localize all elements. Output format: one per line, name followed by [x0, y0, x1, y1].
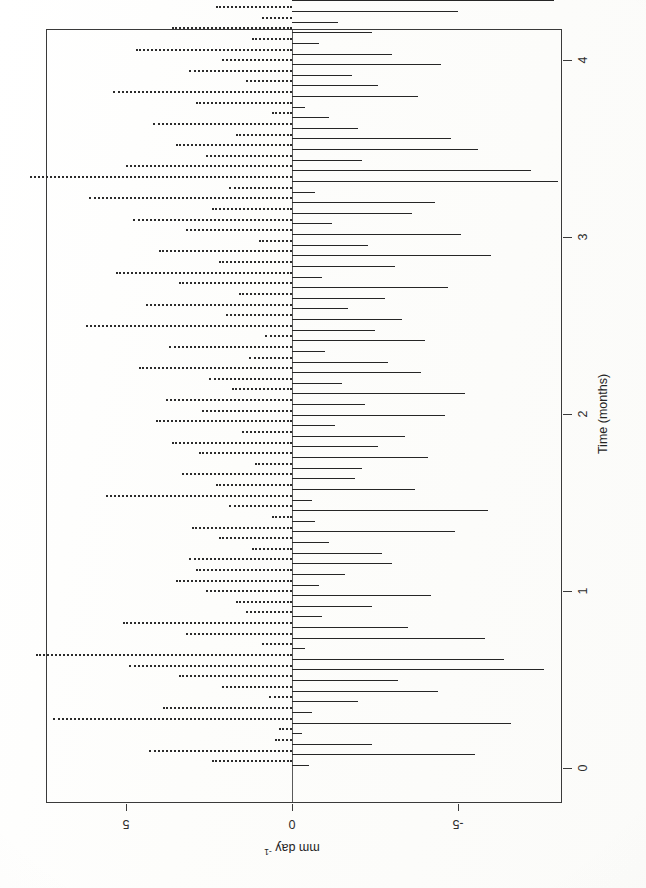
bar-dotted [30, 176, 292, 178]
rotated-timeseries-bar-chart: 50-501234 mm day -1 Time (months) [0, 0, 646, 888]
bar-dotted [209, 378, 292, 380]
bar-solid [292, 606, 372, 607]
bar-solid [292, 436, 405, 437]
bar-solid [292, 138, 451, 139]
bar-solid [292, 351, 325, 352]
bar-dotted [116, 272, 292, 274]
bar-solid [292, 160, 362, 161]
bar-solid [292, 85, 378, 86]
bar-dotted [196, 102, 292, 104]
bar-solid [292, 754, 475, 755]
bar-solid [292, 383, 342, 384]
bar-dotted [246, 80, 292, 82]
bar-dotted [179, 282, 292, 284]
bar-dotted [232, 388, 292, 390]
bar-solid [292, 255, 491, 256]
bar-solid [292, 478, 355, 479]
bar-solid [292, 202, 435, 203]
bar-solid [292, 213, 412, 214]
bar-dotted [53, 718, 292, 720]
bar-dotted [176, 580, 292, 582]
bar-solid [292, 489, 415, 490]
time-axis-tick [563, 414, 572, 415]
bar-dotted [222, 686, 292, 688]
time-axis-tick [563, 60, 572, 61]
bar-solid [292, 765, 309, 766]
time-axis-tick-label: 3 [575, 229, 591, 245]
bar-dotted [176, 144, 292, 146]
bar-solid [292, 128, 358, 129]
value-axis-tick [458, 804, 459, 811]
bar-dotted [189, 558, 292, 560]
bar-solid [292, 277, 322, 278]
value-axis-tick [292, 804, 293, 811]
bar-dotted [169, 346, 292, 348]
bar-dotted [139, 367, 292, 369]
plot-frame [46, 29, 562, 803]
bar-solid [292, 638, 485, 639]
bar-dotted [206, 590, 292, 592]
bar-dotted [249, 357, 292, 359]
bar-dotted [229, 505, 292, 507]
bar-solid [292, 393, 465, 394]
bar-solid [292, 468, 362, 469]
bar-dotted [259, 240, 292, 242]
bar-solid [292, 181, 558, 182]
bar-solid [292, 308, 348, 309]
bar-solid [292, 500, 312, 501]
value-axis-tick-label: 5 [112, 817, 140, 831]
bar-dotted [113, 91, 292, 93]
bar-solid [292, 574, 345, 575]
bar-solid [292, 234, 461, 235]
bar-solid [292, 75, 352, 76]
bar-dotted [252, 548, 292, 550]
bar-dotted [219, 537, 292, 539]
bar-solid [292, 521, 315, 522]
bar-solid [292, 733, 302, 734]
bar-solid [292, 0, 554, 1]
bar-solid [292, 319, 402, 320]
bar-solid [292, 595, 431, 596]
bar-solid [292, 223, 332, 224]
bar-solid [292, 11, 458, 12]
bar-dotted [123, 622, 292, 624]
bar-solid [292, 43, 319, 44]
bar-dotted [226, 314, 292, 316]
bar-solid [292, 192, 315, 193]
bar-dotted [212, 760, 292, 762]
bar-dotted [236, 134, 292, 136]
bar-dotted [86, 325, 292, 327]
bar-solid [292, 245, 368, 246]
bar-dotted [262, 17, 292, 19]
bar-solid [292, 64, 441, 65]
bar-dotted [252, 38, 292, 40]
value-axis-tick-label: 0 [278, 817, 306, 831]
bar-solid [292, 372, 421, 373]
bar-dotted [255, 463, 292, 465]
bar-dotted [172, 442, 292, 444]
bar-solid [292, 32, 372, 33]
bar-solid [292, 22, 338, 23]
bar-solid [292, 404, 365, 405]
bar-dotted [189, 70, 292, 72]
bar-dotted [172, 27, 292, 29]
time-axis-tick-label: 1 [575, 583, 591, 599]
bar-solid [292, 723, 511, 724]
bar-solid [292, 298, 385, 299]
bar-dotted [275, 739, 292, 741]
bar-solid [292, 96, 418, 97]
bar-solid [292, 170, 531, 171]
bar-dotted [242, 431, 292, 433]
value-axis-tick [126, 804, 127, 811]
bar-dotted [186, 229, 292, 231]
bar-dotted [106, 495, 292, 497]
bar-dotted [136, 49, 292, 51]
bar-dotted [156, 420, 292, 422]
bar-dotted [153, 123, 292, 125]
bar-dotted [246, 611, 292, 613]
value-axis-tick-label: -5 [444, 817, 472, 831]
time-axis-tick-label: 0 [575, 760, 591, 776]
bar-dotted [272, 112, 292, 114]
bar-dotted [179, 675, 292, 677]
bar-dotted [196, 569, 292, 571]
